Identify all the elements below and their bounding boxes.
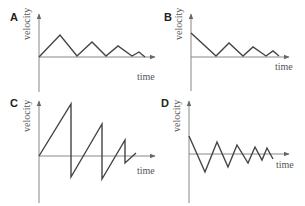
panel-b-curve <box>191 33 279 56</box>
panel-c: C velocity time <box>10 97 155 203</box>
panel-a: A velocity time <box>10 8 155 92</box>
panel-d-label: D <box>161 97 169 109</box>
panel-a-label: A <box>10 11 18 23</box>
panel-a-curve <box>39 35 145 57</box>
panel-d: D velocity time <box>161 97 294 203</box>
panel-b-label: B <box>164 11 172 23</box>
panel-a-xlabel: time <box>137 71 155 82</box>
panel-b-xlabel: time <box>275 61 293 72</box>
panel-d-xlabel: time <box>276 159 294 170</box>
panel-c-curve <box>39 104 136 179</box>
panel-c-xlabel: time <box>137 165 155 176</box>
panel-c-ylabel: velocity <box>21 100 32 132</box>
panel-c-label: C <box>10 97 18 109</box>
velocity-time-graphs: A velocity time B velocity time C veloci… <box>0 0 305 206</box>
panel-d-ylabel: velocity <box>171 100 182 132</box>
panel-a-ylabel: velocity <box>21 8 32 40</box>
panel-b-ylabel: velocity <box>173 8 184 40</box>
panel-b: B velocity time <box>164 8 293 91</box>
